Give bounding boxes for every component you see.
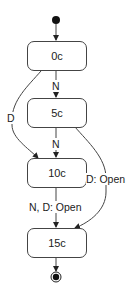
- state-label: 15c: [48, 237, 66, 249]
- state-0c[interactable]: 0c: [27, 41, 87, 71]
- transition-label-10c-15c: N, D: Open: [29, 201, 82, 213]
- state-label: 5c: [51, 107, 63, 119]
- state-label: 0c: [51, 50, 63, 62]
- transition-label-0c-5c: N: [52, 80, 60, 92]
- state-5c[interactable]: 5c: [27, 98, 87, 128]
- state-diagram: 0c 5c 10c 15c N D N D: Open N, D: Open: [0, 0, 133, 294]
- initial-node-icon: [52, 16, 60, 24]
- state-15c[interactable]: 15c: [27, 228, 87, 258]
- transition-label-0c-10c: D: [7, 112, 15, 124]
- transition-label-5c-10c: N: [52, 138, 60, 150]
- final-node-icon: [51, 272, 61, 282]
- transition-label-5c-15c: D: Open: [86, 173, 125, 185]
- state-label: 10c: [48, 167, 66, 179]
- state-10c[interactable]: 10c: [27, 158, 87, 188]
